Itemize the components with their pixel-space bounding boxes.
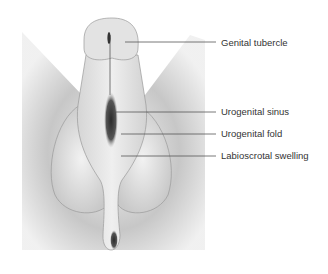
label-urogenital-fold: Urogenital fold (221, 128, 282, 139)
urogenital-sinus-shape (104, 92, 118, 148)
genital-tubercle-shape (84, 18, 138, 60)
label-genital-tubercle: Genital tubercle (221, 37, 288, 48)
label-labioscrotal-swelling: Labioscrotal swelling (221, 150, 309, 161)
label-urogenital-sinus: Urogenital sinus (221, 106, 289, 117)
